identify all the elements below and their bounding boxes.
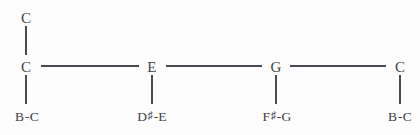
sub-label-3: F♯-G bbox=[263, 110, 292, 124]
top-node-label: C bbox=[21, 11, 31, 26]
sub-label-2: D♯-E bbox=[137, 110, 167, 124]
edge-g-to-c bbox=[290, 65, 386, 67]
node-label-4: C bbox=[395, 60, 405, 75]
node-label-1: C bbox=[21, 60, 31, 75]
edge-g-to-fsharp-g bbox=[275, 75, 277, 104]
sub-label-1-prefix: B bbox=[15, 109, 24, 124]
sub-label-4-prefix: B bbox=[388, 109, 397, 124]
sub-label-3-suffix: -G bbox=[277, 109, 292, 124]
sub-label-4: B-C bbox=[388, 110, 412, 124]
edge-e-to-dsharp-e bbox=[151, 75, 153, 104]
sub-label-2-suffix: -E bbox=[154, 109, 167, 124]
edge-c2-to-bc bbox=[399, 75, 401, 104]
sub-label-1-suffix: -C bbox=[25, 109, 39, 124]
note-chain-diagram: C C E G C B-C D♯-E F♯-G B-C bbox=[0, 0, 420, 135]
sub-label-1: B-C bbox=[15, 110, 39, 124]
edge-top-c-to-c bbox=[25, 26, 27, 55]
edge-c-to-e bbox=[41, 65, 139, 67]
sub-label-3-prefix: F bbox=[263, 109, 271, 124]
edge-c-to-bc bbox=[25, 75, 27, 104]
edge-e-to-g bbox=[166, 65, 262, 67]
sub-label-2-prefix: D bbox=[137, 109, 147, 124]
node-label-2: E bbox=[147, 60, 156, 75]
node-label-3: G bbox=[270, 60, 281, 75]
sub-label-4-suffix: -C bbox=[398, 109, 412, 124]
